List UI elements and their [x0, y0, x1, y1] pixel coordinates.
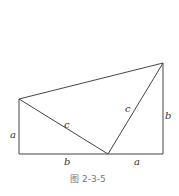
- label-hyp-left-c: c: [64, 119, 70, 130]
- hypotenuse-right: [108, 63, 163, 154]
- trapezoid-diagram: a b a b c c 图 2-3-5: [0, 0, 179, 196]
- top-edge: [19, 63, 163, 99]
- label-hyp-right-c: c: [125, 103, 131, 114]
- label-left-a: a: [10, 129, 16, 140]
- label-right-b: b: [165, 110, 171, 121]
- label-bottom-a: a: [134, 156, 140, 167]
- label-bottom-b: b: [64, 156, 70, 167]
- figure-caption: 图 2-3-5: [70, 174, 106, 184]
